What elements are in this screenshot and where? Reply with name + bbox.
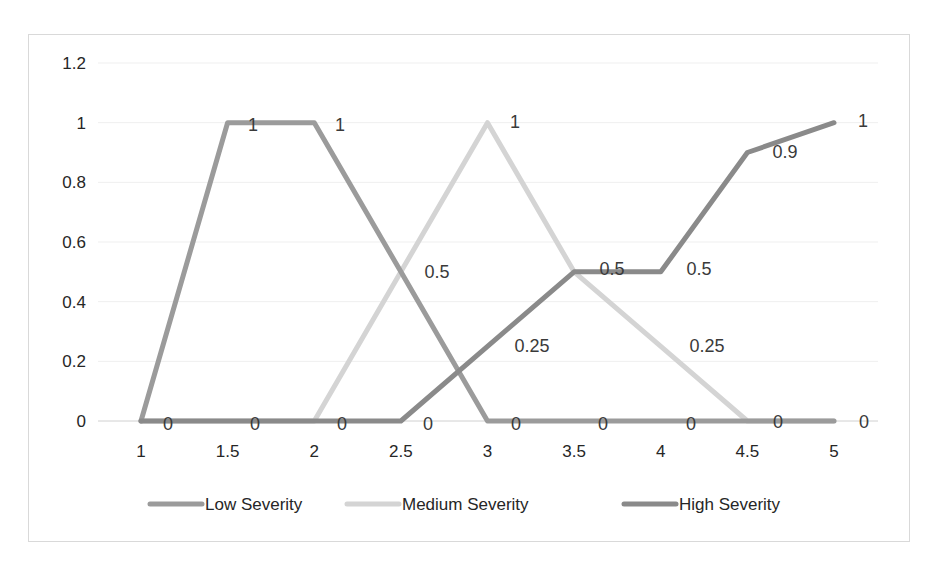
data-label: 0	[859, 412, 869, 432]
x-tick-label: 1	[136, 442, 145, 461]
line-chart: 00.20.40.60.811.2 11.522.533.544.55 0110…	[0, 0, 932, 568]
data-label: 0.25	[514, 336, 549, 356]
data-label: 0.5	[686, 259, 711, 279]
x-tick-label: 4	[656, 442, 665, 461]
x-tick-label: 3.5	[562, 442, 586, 461]
legend-item-high-severity[interactable]: High Severity	[624, 495, 781, 514]
series-lines	[141, 123, 834, 421]
x-tick-label: 5	[829, 442, 838, 461]
data-label: 0.5	[599, 259, 624, 279]
data-label: 0.25	[689, 336, 724, 356]
data-label: 0	[598, 414, 608, 434]
legend-label: Medium Severity	[402, 495, 529, 514]
legend-item-medium-severity[interactable]: Medium Severity	[347, 495, 529, 514]
y-tick-label: 0	[77, 412, 86, 431]
legend-label: Low Severity	[205, 495, 303, 514]
x-tick-label: 4.5	[736, 442, 760, 461]
series-line-low-severity	[141, 123, 834, 421]
legend-item-low-severity[interactable]: Low Severity	[150, 495, 303, 514]
series-line-medium-severity	[141, 123, 834, 421]
data-label: 0.5	[424, 262, 449, 282]
data-label: 0	[250, 414, 260, 434]
legend-label: High Severity	[679, 495, 781, 514]
y-tick-label: 1.2	[62, 54, 86, 73]
data-label: 1	[858, 111, 868, 131]
x-tick-label: 1.5	[216, 442, 240, 461]
data-label: 0	[773, 412, 783, 432]
y-tick-label: 1	[77, 114, 86, 133]
data-label: 1	[510, 112, 520, 132]
data-label: 0	[163, 414, 173, 434]
data-label: 1	[248, 115, 258, 135]
data-label: 0.9	[772, 142, 797, 162]
x-tick-label: 3	[483, 442, 492, 461]
data-label: 0	[337, 414, 347, 434]
gridlines	[98, 63, 878, 421]
data-label: 0	[511, 414, 521, 434]
y-tick-label: 0.6	[62, 233, 86, 252]
y-axis-ticks: 00.20.40.60.811.2	[62, 54, 86, 431]
y-tick-label: 0.2	[62, 352, 86, 371]
x-tick-label: 2	[310, 442, 319, 461]
legend: Low SeverityMedium SeverityHigh Severity	[150, 495, 781, 514]
x-tick-label: 2.5	[389, 442, 413, 461]
series-line-high-severity	[141, 123, 834, 421]
data-label: 0	[423, 414, 433, 434]
data-labels: 011000.5010.2500.500.50.2500.9010	[163, 111, 869, 434]
y-tick-label: 0.4	[62, 293, 86, 312]
y-tick-label: 0.8	[62, 173, 86, 192]
x-axis-ticks: 11.522.533.544.55	[136, 442, 838, 461]
data-label: 0	[686, 414, 696, 434]
data-label: 1	[335, 115, 345, 135]
